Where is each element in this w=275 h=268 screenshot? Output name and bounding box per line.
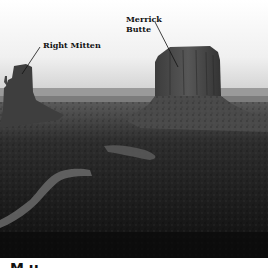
landscape-photo [0,0,268,258]
label-merrick-butte: Merrick Butte [126,14,166,34]
annotation-leader-lines [0,0,268,258]
label-right-mitten: Right Mitten [43,40,101,50]
cut-off-caption: M u [10,260,39,268]
